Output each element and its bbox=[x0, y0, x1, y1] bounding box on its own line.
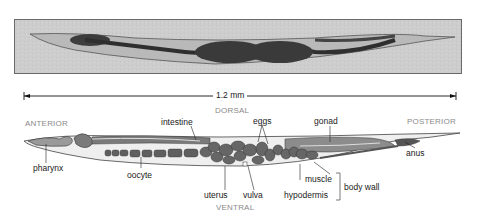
vulva-shape bbox=[243, 162, 247, 166]
posterior-label: POSTERIOR bbox=[407, 118, 456, 126]
ventral-label: VENTRAL bbox=[216, 204, 254, 212]
intestine-shape bbox=[92, 136, 210, 144]
vulva-label: vulva bbox=[243, 191, 263, 200]
anus-label: anus bbox=[406, 149, 424, 158]
gonad-label: gonad bbox=[314, 117, 338, 126]
scale-bar-label: 1.2 mm bbox=[213, 91, 247, 100]
hypodermis-label: hypodermis bbox=[284, 191, 328, 200]
anterior-label: ANTERIOR bbox=[25, 120, 68, 128]
scale-arrow-left-icon bbox=[24, 94, 30, 98]
uterus-label: uterus bbox=[204, 191, 228, 200]
oocyte-label: oocyte bbox=[127, 171, 152, 180]
dorsal-label: DORSAL bbox=[215, 107, 249, 115]
pharynx-label: pharynx bbox=[33, 164, 63, 173]
scale-arrow-right-icon bbox=[450, 94, 456, 98]
body-wall-label: body wall bbox=[344, 183, 379, 192]
eggs-label: eggs bbox=[253, 117, 271, 126]
intestine-label: intestine bbox=[161, 118, 193, 127]
muscle-label: muscle bbox=[305, 175, 332, 184]
